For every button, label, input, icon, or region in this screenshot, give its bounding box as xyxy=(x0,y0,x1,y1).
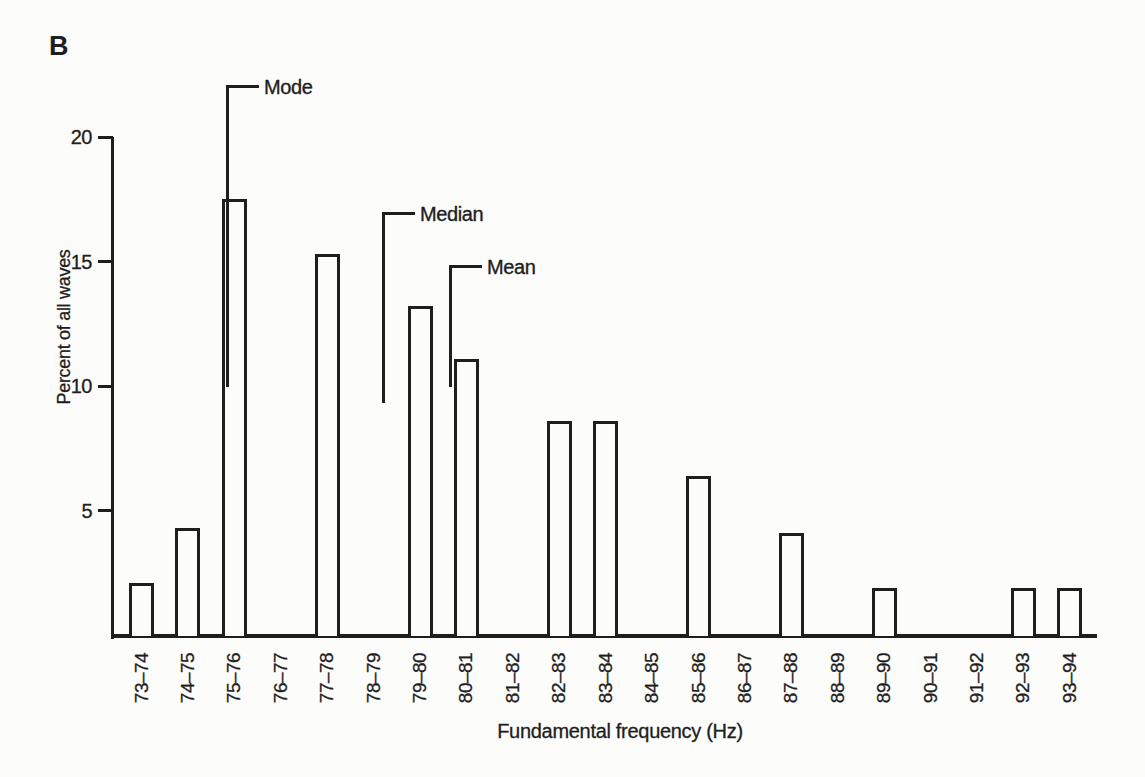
y-tick-label: 20 xyxy=(50,126,92,148)
y-tick-label: 10 xyxy=(50,375,92,397)
annotation-mean-elbow xyxy=(449,265,482,268)
y-tick-mark xyxy=(98,385,113,388)
y-tick-label: 15 xyxy=(50,251,92,273)
histogram-bar xyxy=(315,254,340,636)
x-tick-label: 85–86 xyxy=(688,653,710,703)
x-tick-label: 81–82 xyxy=(502,653,524,703)
annotation-mode-elbow xyxy=(226,85,259,88)
x-tick-label: 84–85 xyxy=(641,653,663,703)
y-tick-mark xyxy=(98,260,113,263)
x-tick-label: 90–91 xyxy=(920,653,942,703)
x-tick-label: 89–90 xyxy=(873,653,895,703)
histogram-figure-panel-b: B Percent of all waves Fundamental frequ… xyxy=(0,0,1145,777)
x-tick-label: 78–79 xyxy=(363,653,385,703)
y-tick-mark xyxy=(98,136,113,139)
x-tick-label: 92–93 xyxy=(1012,653,1034,703)
annotation-label-median: Median xyxy=(420,203,483,226)
x-tick-label: 87–88 xyxy=(780,653,802,703)
histogram-bar xyxy=(408,306,433,636)
histogram-bar xyxy=(872,588,897,636)
x-tick-label: 83–84 xyxy=(595,653,617,703)
x-tick-label: 74–75 xyxy=(177,653,199,703)
histogram-bar xyxy=(454,359,479,636)
annotation-median-vline xyxy=(382,212,385,403)
histogram-bar xyxy=(547,421,572,636)
annotation-mode-vline xyxy=(226,85,229,387)
x-tick-label: 82–83 xyxy=(548,653,570,703)
x-tick-label: 88–89 xyxy=(827,653,849,703)
annotation-label-mean: Mean xyxy=(487,256,535,279)
y-axis-line xyxy=(111,137,114,639)
histogram-bar xyxy=(1011,588,1036,636)
y-tick-mark xyxy=(98,509,113,512)
x-tick-label: 75–76 xyxy=(223,653,245,703)
x-tick-label: 77–78 xyxy=(316,653,338,703)
figure-panel-label: B xyxy=(49,31,69,62)
annotation-median-elbow xyxy=(382,212,415,215)
x-tick-label: 73–74 xyxy=(131,653,153,703)
annotation-label-mode: Mode xyxy=(264,76,312,99)
histogram-bar xyxy=(129,583,154,636)
histogram-bar xyxy=(779,533,804,636)
x-tick-label: 76–77 xyxy=(270,653,292,703)
x-tick-label: 80–81 xyxy=(455,653,477,703)
x-tick-label: 93–94 xyxy=(1059,653,1081,703)
histogram-bar xyxy=(1057,588,1082,636)
annotation-mean-vline xyxy=(449,265,452,387)
y-tick-label: 5 xyxy=(50,500,92,522)
x-tick-label: 86–87 xyxy=(734,653,756,703)
x-tick-label: 91–92 xyxy=(966,653,988,703)
histogram-bar xyxy=(593,421,618,636)
x-tick-label: 79–80 xyxy=(409,653,431,703)
x-axis-title: Fundamental frequency (Hz) xyxy=(497,720,743,743)
histogram-bar xyxy=(175,528,200,636)
histogram-bar xyxy=(686,476,711,636)
